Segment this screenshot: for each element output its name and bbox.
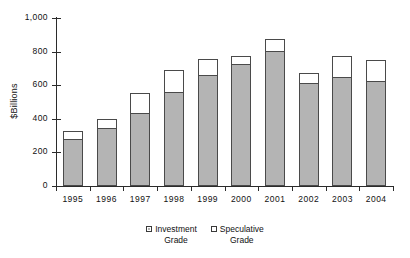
y-axis-tick-label: 400: [33, 113, 48, 123]
x-axis-ticks: [56, 186, 393, 192]
bar-segment-speculative-grade: [265, 39, 285, 52]
x-axis-tick: [393, 186, 394, 191]
y-axis-title: $Billions: [9, 66, 19, 136]
y-axis-tick-labels: 02004006008001,000: [0, 0, 48, 258]
bar-segment-speculative-grade: [231, 56, 251, 65]
bar-segment-investment-grade: [332, 77, 352, 186]
y-axis-tick-label: 800: [33, 46, 48, 56]
bar-segment-investment-grade: [366, 81, 386, 186]
x-axis-tick: [123, 186, 124, 191]
y-axis-tick-label: 0: [43, 180, 48, 190]
x-axis-tick-label: 2004: [353, 194, 399, 204]
bar-series-container: [56, 18, 393, 186]
y-axis-tick-label: 1,000: [25, 12, 48, 22]
bar-segment-investment-grade: [299, 83, 319, 186]
stacked-bar-chart: 02004006008001,000 $Billions 19951996199…: [0, 0, 410, 258]
bar-segment-speculative-grade: [63, 131, 83, 140]
y-axis-tick-label: 200: [33, 146, 48, 156]
empty-white-swatch: [211, 226, 217, 232]
x-axis-tick: [157, 186, 158, 191]
x-axis-tick: [326, 186, 327, 191]
bar-segment-investment-grade: [265, 51, 285, 186]
legend-label: Investment Grade: [155, 224, 197, 245]
bar-segment-investment-grade: [231, 64, 251, 186]
bar-segment-speculative-grade: [130, 93, 150, 114]
chart-legend: Investment GradeSpeculative Grade: [0, 224, 410, 256]
legend-item: Speculative Grade: [211, 224, 264, 245]
x-axis-tick: [225, 186, 226, 191]
bar-segment-investment-grade: [63, 139, 83, 186]
bar-segment-speculative-grade: [332, 56, 352, 78]
legend-label: Speculative Grade: [220, 224, 264, 245]
bar-segment-investment-grade: [198, 75, 218, 186]
x-axis-tick: [258, 186, 259, 191]
bar-segment-speculative-grade: [299, 73, 319, 84]
x-axis-tick-labels: 1995199619971998199920002001200220032004: [56, 194, 393, 210]
bar-segment-investment-grade: [130, 113, 150, 186]
x-axis-tick: [359, 186, 360, 191]
legend-item: Investment Grade: [146, 224, 197, 245]
y-axis-tick-label: 600: [33, 79, 48, 89]
x-axis-tick: [191, 186, 192, 191]
bar-segment-investment-grade: [164, 92, 184, 186]
bar-segment-speculative-grade: [97, 119, 117, 129]
x-axis-tick: [90, 186, 91, 191]
x-axis-tick: [56, 186, 57, 191]
bar-segment-investment-grade: [97, 128, 117, 186]
filled-gray-swatch: [146, 226, 152, 232]
bar-segment-speculative-grade: [366, 60, 386, 82]
bar-segment-speculative-grade: [164, 70, 184, 93]
bar-segment-speculative-grade: [198, 59, 218, 76]
x-axis-tick: [292, 186, 293, 191]
